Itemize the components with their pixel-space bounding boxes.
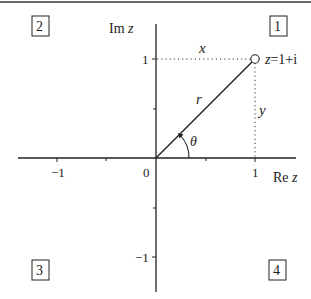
y-tick-label-1: 1	[142, 52, 149, 67]
r-label: r	[196, 91, 202, 107]
point-z-label: z=1+i	[264, 52, 297, 67]
imag-axis-label: Im z	[109, 21, 134, 36]
svg-text:2: 2	[36, 19, 43, 34]
quadrant-2-box: 2	[32, 16, 49, 36]
x-component-label: x	[198, 40, 206, 56]
real-axis-label: Re z	[273, 170, 298, 185]
quadrant-4-box: 4	[269, 260, 286, 280]
y-tick-label-minus-1: −1	[135, 250, 149, 265]
svg-text:4: 4	[273, 263, 280, 278]
point-z-marker	[251, 55, 259, 63]
x-tick-label-1: 1	[252, 165, 259, 180]
svg-text:3: 3	[36, 263, 43, 278]
x-tick-label-minus-1: −1	[51, 165, 65, 180]
quadrant-1-box: 1	[270, 16, 287, 36]
theta-arc	[181, 136, 190, 159]
quadrant-3-box: 3	[32, 260, 49, 280]
theta-label: θ	[190, 134, 197, 149]
svg-text:1: 1	[274, 19, 281, 34]
origin-label: 0	[143, 165, 150, 180]
complex-plane-diagram: Im z Re z −1 1 0 1 −1 x y r θ z=1+i 2 1 …	[0, 0, 311, 299]
y-component-label: y	[257, 102, 266, 118]
radius-vector-r	[156, 62, 252, 158]
